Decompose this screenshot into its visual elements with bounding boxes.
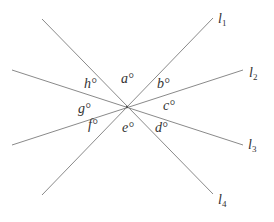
angle-label-d: d° <box>155 121 168 135</box>
line-label-l1: l1 <box>218 12 226 28</box>
line-label-l3: l3 <box>248 138 256 154</box>
diagram-canvas: l1 l2 l3 l4 a° b° c° d° e° f° g° h° <box>0 0 274 222</box>
line-label-l4: l4 <box>218 193 226 209</box>
angle-label-a: a° <box>121 72 134 86</box>
lines-layer <box>0 0 274 222</box>
angle-label-e: e° <box>122 121 134 135</box>
intersection-point <box>126 106 128 108</box>
angle-label-h: h° <box>84 77 97 91</box>
angle-label-c: c° <box>163 99 175 113</box>
angle-label-g: g° <box>78 102 91 116</box>
line-label-l2: l2 <box>249 66 257 82</box>
angle-label-f: f° <box>88 118 98 132</box>
angle-label-b: b° <box>157 77 170 91</box>
